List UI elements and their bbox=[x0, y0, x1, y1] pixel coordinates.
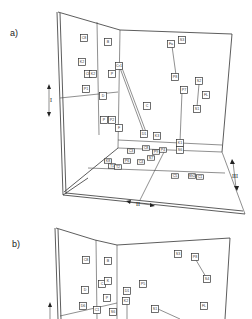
sample-marker: P bbox=[109, 71, 116, 78]
panel-b-axis-I bbox=[48, 302, 52, 319]
sample-marker: T2 bbox=[115, 165, 122, 170]
svg-text:S3: S3 bbox=[180, 38, 184, 42]
svg-text:S6: S6 bbox=[178, 148, 182, 152]
svg-text:K1: K1 bbox=[178, 141, 182, 145]
sample-marker: C bbox=[144, 103, 151, 110]
svg-text:P7: P7 bbox=[182, 88, 186, 92]
sample-marker: D6 bbox=[80, 303, 87, 310]
svg-text:C8: C8 bbox=[84, 258, 89, 262]
svg-text:Cr1: Cr1 bbox=[116, 64, 122, 68]
svg-text:T1: T1 bbox=[110, 164, 114, 168]
svg-text:S3: S3 bbox=[176, 252, 180, 256]
sample-marker: C1 bbox=[94, 307, 101, 314]
svg-text:C1: C1 bbox=[95, 308, 100, 312]
ordination-diagram: I II III C8BK2C8K2Cr1PP1DFaS3P8S2P7FLS1C… bbox=[0, 0, 252, 319]
svg-text:P8: P8 bbox=[193, 255, 197, 259]
sample-marker: K2 bbox=[123, 298, 130, 305]
sample-marker: D bbox=[100, 93, 107, 100]
sample-marker: S7 bbox=[148, 156, 155, 161]
sample-marker: P5 bbox=[140, 281, 147, 288]
svg-text:C1: C1 bbox=[198, 175, 203, 179]
svg-text:K2: K2 bbox=[91, 72, 95, 76]
svg-text:C: C bbox=[146, 104, 149, 108]
sample-marker: B bbox=[105, 39, 112, 46]
sample-marker: Fa bbox=[168, 41, 175, 48]
sample-marker: P1 bbox=[83, 86, 90, 93]
svg-text:C8: C8 bbox=[144, 146, 149, 150]
sample-marker: S2 bbox=[196, 78, 203, 85]
svg-text:S1: S1 bbox=[153, 307, 157, 311]
sample-marker: P bbox=[101, 117, 108, 124]
svg-text:D1: D1 bbox=[142, 132, 147, 136]
svg-text:P5: P5 bbox=[141, 282, 145, 286]
svg-text:S2: S2 bbox=[197, 79, 201, 83]
svg-text:P9: P9 bbox=[154, 150, 158, 154]
sample-marker: D bbox=[82, 287, 89, 294]
svg-text:S1: S1 bbox=[195, 107, 199, 111]
panel-a-axis-I: I bbox=[47, 84, 52, 117]
panel-a-axis-III: III bbox=[230, 159, 239, 191]
sample-marker: S1 bbox=[194, 106, 201, 113]
sample-marker: S1 bbox=[152, 306, 159, 313]
svg-text:C8: C8 bbox=[82, 36, 87, 40]
svg-text:FL: FL bbox=[202, 304, 206, 308]
svg-text:Fa: Fa bbox=[169, 42, 173, 46]
svg-text:C3: C3 bbox=[129, 149, 134, 153]
panel-a-box bbox=[57, 12, 245, 214]
sample-marker: S4 bbox=[204, 276, 211, 283]
sample-marker: K8 bbox=[105, 159, 112, 164]
sample-marker: K1 bbox=[177, 140, 184, 147]
sample-marker: F bbox=[116, 125, 123, 132]
sample-marker: K3 bbox=[154, 133, 161, 140]
sample-marker: C8 bbox=[83, 257, 90, 264]
sample-marker: K2 bbox=[79, 59, 86, 66]
sample-marker: D1 bbox=[124, 288, 131, 295]
sample-marker: C5 bbox=[172, 174, 179, 179]
sample-marker: P8 bbox=[172, 74, 179, 81]
sample-marker: D1 bbox=[141, 131, 148, 138]
sample-marker: P2 bbox=[109, 117, 116, 124]
svg-text:D1: D1 bbox=[125, 289, 130, 293]
svg-text:K2: K2 bbox=[124, 299, 128, 303]
svg-text:P8: P8 bbox=[173, 75, 177, 79]
svg-text:D: D bbox=[84, 288, 87, 292]
sample-marker: K2 bbox=[90, 71, 97, 78]
svg-text:P4: P4 bbox=[161, 148, 165, 152]
axis-III-label: III bbox=[232, 173, 238, 179]
svg-text:K3: K3 bbox=[155, 134, 159, 138]
sample-marker: K bbox=[105, 278, 112, 285]
axis-I-label: I bbox=[50, 97, 52, 103]
svg-text:P2: P2 bbox=[110, 118, 114, 122]
sample-marker: B bbox=[105, 258, 112, 265]
sample-marker: FL bbox=[201, 303, 208, 310]
sample-marker: C4 bbox=[138, 160, 145, 165]
svg-text:C4: C4 bbox=[139, 160, 144, 164]
svg-text:S6: S6 bbox=[111, 310, 115, 314]
svg-text:P6: P6 bbox=[125, 159, 129, 163]
sample-marker: P6 bbox=[124, 159, 131, 164]
svg-text:D6: D6 bbox=[81, 304, 86, 308]
svg-text:Sh2: Sh2 bbox=[189, 174, 195, 178]
sample-marker: S3 bbox=[175, 251, 182, 258]
svg-text:T2: T2 bbox=[116, 165, 120, 169]
svg-text:P1: P1 bbox=[84, 87, 88, 91]
svg-text:K2: K2 bbox=[80, 60, 84, 64]
sample-marker: S6 bbox=[110, 309, 117, 316]
svg-text:S4: S4 bbox=[205, 277, 209, 281]
axis-II-label: II bbox=[136, 201, 140, 207]
sample-marker: Cr1 bbox=[116, 63, 123, 70]
sample-marker: S6 bbox=[177, 147, 184, 154]
svg-text:S7: S7 bbox=[149, 156, 153, 160]
sample-marker: C8 bbox=[143, 146, 150, 151]
sample-marker: C1 bbox=[197, 175, 204, 180]
sample-marker: P8 bbox=[192, 254, 199, 261]
svg-text:C5: C5 bbox=[173, 174, 178, 178]
sample-marker: Sh2 bbox=[189, 174, 196, 179]
panel-a-connectors bbox=[120, 46, 199, 142]
sample-marker: P bbox=[104, 295, 111, 302]
sample-marker: C8 bbox=[81, 35, 88, 42]
panel-a-axis-II: II bbox=[126, 200, 155, 207]
sample-marker: P9 bbox=[153, 150, 160, 155]
sample-marker: P4 bbox=[160, 148, 167, 153]
sample-marker: P7 bbox=[181, 87, 188, 94]
